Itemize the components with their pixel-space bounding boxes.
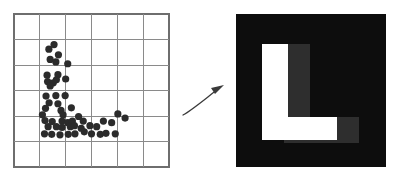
scatter-point (64, 60, 71, 67)
scatter-point (52, 58, 59, 65)
scatter-point (58, 124, 65, 131)
scatter-point (42, 93, 49, 100)
scatter-point (52, 92, 59, 99)
scatter-point (93, 123, 100, 130)
scatter-point (47, 82, 54, 89)
scatter-point (54, 100, 61, 107)
scatter-point (121, 114, 128, 121)
arrow-curve-path (183, 89, 218, 115)
rendered-image-panel (236, 14, 386, 167)
scatter-grid-panel (14, 14, 169, 167)
scatter-point (75, 113, 82, 120)
scatter-point (100, 118, 107, 125)
scatter-point (68, 104, 75, 111)
scatter-point (86, 122, 93, 129)
scatter-point (65, 131, 72, 138)
scatter-point (53, 76, 60, 83)
transform-arrow (183, 85, 224, 115)
scatter-point (114, 110, 121, 117)
scatter-point (62, 75, 69, 82)
scatter-point (55, 51, 62, 58)
scatter-point (88, 130, 95, 137)
scatter-point (45, 123, 52, 130)
scatter-point (71, 122, 78, 129)
scatter-point (42, 105, 49, 112)
scatter-point (39, 111, 46, 118)
figure-container (0, 0, 400, 183)
scatter-point (102, 130, 109, 137)
scatter-point (108, 119, 115, 126)
scatter-point (62, 92, 69, 99)
scatter-point (81, 128, 88, 135)
image-background (236, 14, 386, 167)
scatter-point (43, 72, 50, 79)
scatter-point (50, 41, 57, 48)
scatter-point (48, 131, 55, 138)
scatter-point (59, 111, 66, 118)
scatter-point (41, 130, 48, 137)
figure-svg (0, 0, 400, 183)
scatter-point (112, 130, 119, 137)
scatter-point (71, 130, 78, 137)
scatter-point (56, 131, 63, 138)
